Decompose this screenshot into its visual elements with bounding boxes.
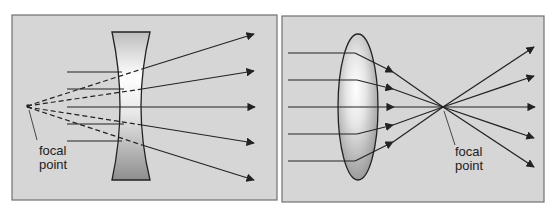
lens-diagram: focal point xyxy=(0,0,554,210)
focal-label-line2: point xyxy=(455,158,484,173)
focal-point-marker xyxy=(26,104,30,108)
diverging-lens-panel: focal point xyxy=(12,15,277,200)
panel-background xyxy=(282,16,544,202)
focal-label-line2: point xyxy=(39,157,68,172)
focal-label-line1: focal xyxy=(455,144,483,159)
converging-lens-panel: focal point xyxy=(282,16,544,202)
focal-label-line1: focal xyxy=(39,143,67,158)
